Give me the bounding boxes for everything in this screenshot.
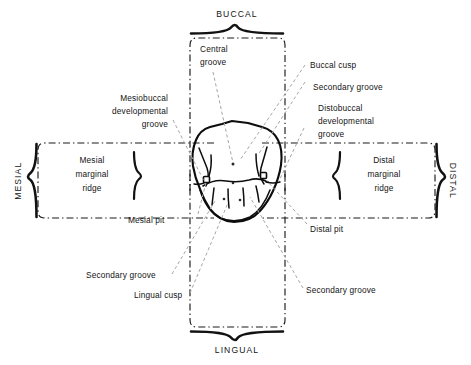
distobuccal-groove-line3: groove	[318, 129, 428, 141]
mesiobuccal-groove-line3: groove	[72, 119, 168, 131]
lingual-direction-label: LINGUAL	[205, 345, 269, 357]
secondary-groove-bottom-right-label: Secondary groove	[306, 285, 416, 297]
leader-distobuccal-groove	[279, 128, 304, 181]
leader-distal-pit	[266, 180, 307, 224]
buccal-brace	[191, 25, 283, 34]
distal-brace	[437, 144, 446, 217]
secondary-groove-bottom-left-label: Secondary groove	[86, 270, 196, 282]
mesial-marginal-ridge-line2: marginal	[58, 169, 126, 181]
mesiobuccal-groove-line1: Mesiobuccal	[72, 93, 168, 105]
mesial-marginal-ridge-line1: Mesial	[58, 155, 126, 167]
distal-marginal-ridge-line2: marginal	[350, 169, 418, 181]
distobuccal-groove-line1: Distobuccal	[318, 103, 428, 115]
leader-secondary-groove-bottom-left	[172, 201, 215, 274]
mesial-brace	[28, 144, 37, 217]
mesial-direction-label: MESIAL	[13, 149, 25, 213]
mesial-marginal-ridge-line3: ridge	[58, 183, 126, 195]
mesial-pit-label: Mesial pit	[128, 215, 208, 227]
leader-central-groove	[213, 72, 233, 163]
dental-anatomy-diagram: .dashdot { fill: none; stroke: #1a1a1a; …	[0, 0, 471, 365]
lingual-brace	[191, 332, 283, 341]
secondary-groove-top-right-label: Secondary groove	[313, 82, 423, 94]
tooth-grooves-and-cusps	[194, 147, 280, 221]
distobuccal-groove-line2: developmental	[318, 116, 428, 128]
lingual-cusp-label: Lingual cusp	[134, 290, 224, 302]
buccal-direction-label: BUCCAL	[205, 9, 269, 21]
buccal-cusp-label: Buccal cusp	[310, 60, 420, 72]
distal-pit-label: Distal pit	[310, 224, 390, 236]
distal-direction-label: DISTAL	[446, 149, 458, 213]
tooth-occlusal-outline	[192, 121, 281, 222]
leader-lines	[172, 65, 307, 293]
mesiobuccal-groove-line2: developmental	[72, 106, 168, 118]
distal-marginal-ridge-line1: Distal	[350, 155, 418, 167]
distal-marginal-ridge-line3: ridge	[350, 183, 418, 195]
central-groove-line2: groove	[200, 57, 280, 69]
leader-secondary-groove-top-right	[258, 82, 305, 155]
mesial-marginal-ridge-brace	[134, 152, 141, 199]
central-groove-line1: Central	[200, 44, 280, 56]
distal-marginal-ridge-brace	[333, 152, 340, 199]
